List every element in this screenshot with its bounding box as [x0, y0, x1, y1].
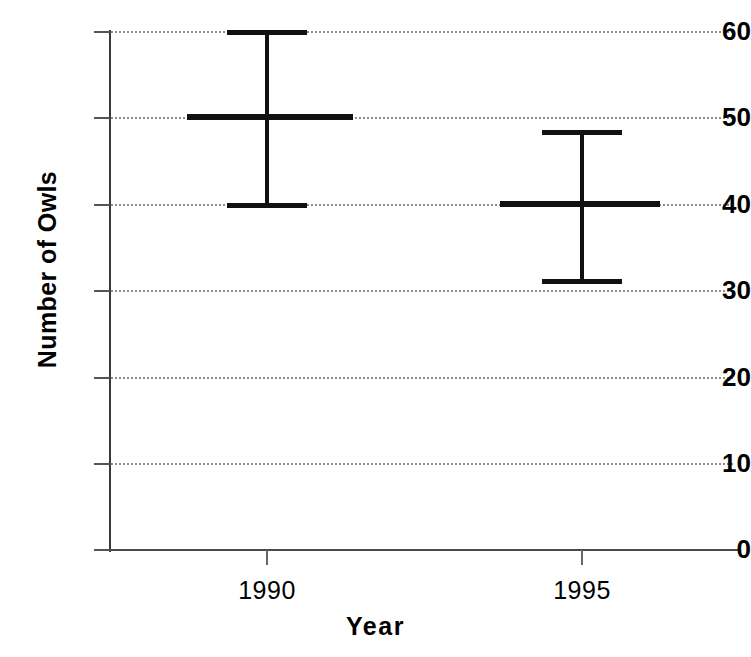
y-tick-20 — [94, 377, 110, 379]
error-bar-upper-cap-1990 — [227, 30, 307, 35]
y-tick-label-10: 10 — [665, 450, 751, 476]
x-tick-label-1990: 1990 — [197, 576, 337, 605]
error-bar-lower-cap-1990 — [227, 203, 307, 208]
x-tick-label-1995: 1995 — [512, 576, 652, 605]
y-tick-label-0: 0 — [665, 536, 751, 562]
y-tick-50 — [94, 117, 110, 119]
y-tick-label-40: 40 — [665, 191, 751, 217]
mean-line-1990 — [187, 114, 353, 120]
chart-canvas: 60 50 40 30 20 10 0 Number of Owls 1990 … — [0, 0, 751, 657]
y-tick-0 — [94, 549, 110, 551]
x-axis-title: Year — [0, 612, 751, 641]
error-bar-upper-cap-1995 — [542, 130, 622, 135]
mean-line-1995 — [500, 201, 660, 207]
y-tick-label-30: 30 — [665, 277, 751, 303]
gridline-10 — [111, 463, 733, 466]
y-tick-label-50: 50 — [665, 104, 751, 130]
y-tick-label-20: 20 — [665, 364, 751, 390]
y-tick-label-60: 60 — [665, 18, 751, 44]
x-axis-line — [109, 549, 739, 551]
gridline-60 — [111, 31, 733, 34]
x-tick-1995 — [581, 550, 583, 565]
y-tick-40 — [94, 204, 110, 206]
y-tick-10 — [94, 463, 110, 465]
error-bar-stem-1995 — [580, 131, 584, 283]
gridline-20 — [111, 377, 733, 380]
y-tick-30 — [94, 290, 110, 292]
gridline-30 — [111, 290, 733, 293]
error-bar-lower-cap-1995 — [542, 279, 622, 284]
y-tick-60 — [94, 31, 110, 33]
x-tick-1990 — [266, 550, 268, 565]
y-axis-title: Number of Owls — [33, 155, 62, 385]
